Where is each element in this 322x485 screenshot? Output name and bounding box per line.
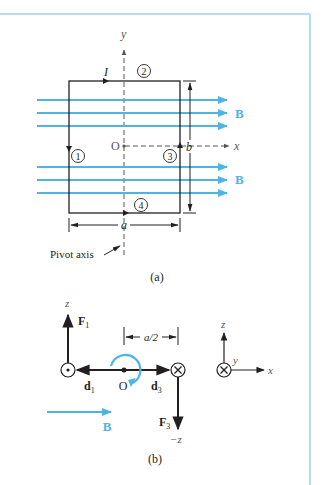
segment-label-1: 1	[72, 150, 85, 163]
neg-z-label: −z	[170, 433, 182, 445]
y-axis-label: y	[120, 27, 127, 41]
axes-z-label: z	[220, 318, 226, 330]
svg-text:3: 3	[168, 151, 173, 162]
field-label-b: B	[103, 419, 112, 434]
coordinate-axes	[217, 333, 264, 377]
force-3-label: F3	[159, 415, 170, 431]
origin-point	[122, 144, 125, 147]
svg-text:2: 2	[142, 66, 147, 77]
caption-b: (b)	[148, 452, 162, 466]
width-label: a	[121, 218, 127, 232]
d3-label: d3	[151, 379, 162, 395]
current-arrow-left	[66, 146, 72, 152]
origin-label-b: O	[119, 379, 128, 393]
pivot-axis-label: Pivot axis	[50, 248, 94, 260]
current-arrow-right	[177, 142, 183, 148]
wire-3-into-page	[171, 363, 185, 377]
d1-label: d1	[84, 379, 95, 395]
field-lines-top	[37, 100, 227, 126]
segment-label-4: 4	[135, 199, 148, 212]
current-arrow-bottom	[123, 210, 129, 216]
height-label: b	[186, 140, 192, 154]
field-label-bottom: B	[235, 172, 244, 187]
current-label: I	[103, 65, 109, 79]
part-b: z F1 O d1 d3 a/2	[47, 297, 273, 466]
part-a: y x O B B I 2	[37, 27, 244, 284]
wire-1-out-of-page	[61, 363, 75, 377]
x-axis-label: x	[233, 139, 240, 153]
half-width-label: a/2	[144, 331, 159, 343]
pivot-point	[122, 368, 127, 373]
svg-text:4: 4	[139, 200, 144, 211]
axes-y-label: y	[232, 354, 238, 366]
field-lines-bottom	[37, 167, 227, 193]
torque-loop-diagram: y x O B B I 2	[0, 0, 322, 485]
origin-label: O	[111, 139, 120, 153]
axes-x-label: x	[267, 364, 273, 376]
svg-text:1: 1	[76, 151, 81, 162]
segment-label-2: 2	[138, 65, 151, 78]
pivot-pointer	[104, 246, 120, 255]
caption-a: (a)	[150, 270, 163, 284]
force-1-label: F1	[78, 314, 89, 330]
field-label-top: B	[235, 106, 244, 121]
figure-frame	[0, 14, 310, 485]
z-axis-label: z	[64, 297, 70, 309]
segment-label-3: 3	[164, 150, 177, 163]
